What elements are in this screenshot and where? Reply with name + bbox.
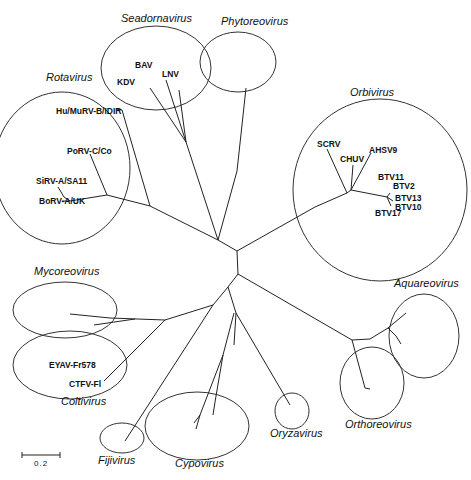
taxon-label-eyav: EYAV-Fr578	[49, 360, 96, 370]
scale-bar-label: 0.2	[34, 459, 48, 468]
genus-label-phytoreovirus: Phytoreovirus	[221, 15, 289, 27]
genus-label-oryzavirus: Oryzavirus	[270, 427, 323, 439]
orbivirus-oval	[293, 99, 467, 281]
taxon-label-porv: PoRV-C/Co	[67, 146, 112, 156]
taxon-label-ahsv9: AHSV9	[369, 145, 398, 155]
phytoreovirus-oval	[200, 32, 276, 92]
tree-branches	[58, 80, 406, 441]
taxon-label-lnv: LNV	[162, 69, 179, 79]
genus-label-orbivirus: Orbivirus	[350, 86, 395, 98]
taxon-label-chuv: CHUV	[340, 154, 364, 164]
genus-label-orthoreovirus: Orthoreovirus	[345, 418, 412, 430]
genus-label-rotavirus: Rotavirus	[46, 71, 93, 83]
genus-label-seadornavirus: Seadornavirus	[121, 12, 192, 24]
mycoreovirus-oval	[13, 282, 117, 338]
scale-bar: 0.2	[22, 452, 60, 468]
genus-label-fijivirus: Fijivirus	[98, 454, 136, 466]
phylogenetic-tree: Seadornavirus Phytoreovirus Rotavirus Or…	[0, 0, 471, 480]
genus-label-mycoreovirus: Mycoreovirus	[34, 265, 100, 277]
taxon-label-sirv: SiRV-A/SA11	[36, 176, 88, 186]
taxon-label-btv17: BTV17	[375, 208, 402, 218]
aquareovirus-oval	[389, 294, 459, 378]
genus-label-cypovirus: Cypovirus	[175, 457, 224, 469]
taxon-label-borv: BoRV-A/UK	[39, 196, 86, 206]
taxon-label-btv2: BTV2	[393, 181, 415, 191]
taxon-label-bav: BAV	[135, 60, 153, 70]
taxon-label-ctfv: CTFV-Fl	[69, 379, 101, 389]
oryzavirus-oval	[275, 393, 309, 429]
taxon-label-hu-murv: Hu/MuRV-B/IDIR	[56, 106, 121, 116]
taxon-label-kdv: KDV	[117, 77, 135, 87]
genus-label-coltivirus: Coltivirus	[61, 395, 107, 407]
genus-label-aquareovirus: Aquareovirus	[393, 277, 459, 289]
taxon-label-scrv: SCRV	[317, 139, 341, 149]
fijivirus-oval	[100, 423, 144, 453]
